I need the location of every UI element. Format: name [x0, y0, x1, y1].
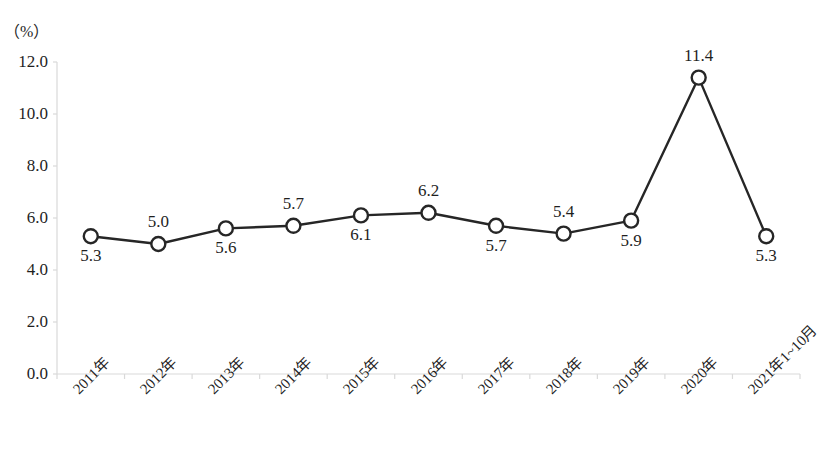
data-point-value-label: 5.4 [553, 202, 574, 222]
data-point-value-label: 6.2 [418, 181, 439, 201]
data-point-marker-hit[interactable] [757, 227, 775, 245]
data-point-marker-hit[interactable] [82, 227, 100, 245]
data-point-marker-hit[interactable] [622, 212, 640, 230]
data-point-value-label: 5.9 [621, 231, 642, 251]
data-point-marker-hit[interactable] [149, 235, 167, 253]
data-point-marker-hit[interactable] [555, 225, 573, 243]
data-point-value-label: 11.4 [684, 46, 713, 66]
data-point-marker-hit[interactable] [487, 217, 505, 235]
data-point-marker-hit[interactable] [690, 69, 708, 87]
data-point-marker-hit[interactable] [420, 204, 438, 222]
data-point-value-label: 5.3 [756, 246, 777, 266]
y-axis-tick-label: 10.0 [0, 104, 48, 124]
data-point-value-label: 5.3 [80, 246, 101, 266]
y-axis-tick-label: 12.0 [0, 52, 48, 72]
y-axis-tick-label: 2.0 [0, 312, 48, 332]
data-point-value-label: 5.0 [148, 212, 169, 232]
y-axis-tick-label: 6.0 [0, 208, 48, 228]
data-point-marker-hit[interactable] [284, 217, 302, 235]
data-point-value-label: 5.7 [283, 194, 304, 214]
data-point-marker-hit[interactable] [352, 206, 370, 224]
data-point-marker-hit[interactable] [217, 219, 235, 237]
data-point-value-label: 6.1 [350, 225, 371, 245]
series-markers [84, 71, 773, 251]
data-point-value-label: 5.6 [215, 238, 236, 258]
data-point-value-label: 5.7 [485, 236, 506, 256]
y-axis-tick-label: 4.0 [0, 260, 48, 280]
y-axis-tick-label: 8.0 [0, 156, 48, 176]
y-axis-tick-label: 0.0 [0, 364, 48, 384]
